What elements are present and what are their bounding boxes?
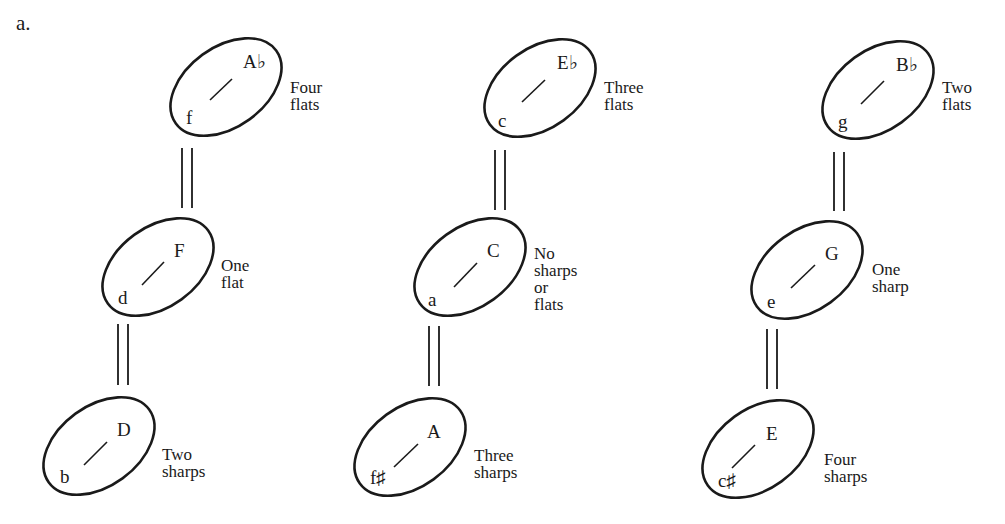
major-key-label: E♭ bbox=[557, 53, 578, 72]
minor-key-label: b bbox=[60, 467, 70, 486]
minor-key-label: f♯ bbox=[370, 468, 386, 487]
relative-slash bbox=[861, 81, 884, 104]
major-key-label: B♭ bbox=[896, 55, 918, 74]
major-key-label: D bbox=[117, 420, 131, 439]
key-signature-label: Fourflats bbox=[290, 79, 322, 113]
relative-slash bbox=[210, 79, 232, 100]
key-relationship-diagram: a. bbox=[0, 0, 1005, 524]
minor-key-label: d bbox=[118, 288, 128, 307]
relative-slash bbox=[454, 263, 477, 287]
key-ellipse-e-csharp bbox=[684, 380, 831, 518]
minor-key-label: g bbox=[838, 112, 848, 131]
relative-slash bbox=[791, 265, 815, 288]
key-signature-label: Twosharps bbox=[162, 446, 205, 480]
key-signature-label: Nosharpsorflats bbox=[534, 245, 577, 313]
minor-key-label: c♯ bbox=[718, 471, 736, 490]
key-signature-label: Onesharp bbox=[872, 261, 909, 295]
key-signature-label: Oneflat bbox=[221, 257, 249, 291]
major-key-label: A bbox=[427, 422, 441, 441]
key-signature-label: Twoflats bbox=[942, 79, 972, 113]
key-signature-label: Threeflats bbox=[604, 79, 644, 113]
key-ellipse-d-b bbox=[25, 377, 172, 515]
key-ellipse-eb-c bbox=[466, 19, 613, 157]
key-ellipse-g-e bbox=[733, 201, 880, 339]
key-ellipse-bb-g bbox=[804, 21, 951, 159]
major-key-label: G bbox=[825, 244, 839, 263]
major-key-label: C bbox=[487, 241, 500, 260]
relative-slash bbox=[522, 80, 545, 102]
key-signature-label: Threesharps bbox=[474, 447, 517, 481]
key-ellipse-ab-f bbox=[152, 18, 299, 156]
relative-slash bbox=[394, 444, 418, 467]
relative-slash bbox=[142, 262, 164, 285]
relative-slash bbox=[732, 445, 755, 468]
key-ellipse-c-a bbox=[396, 198, 543, 336]
minor-key-label: c bbox=[498, 111, 506, 130]
minor-key-label: f bbox=[186, 108, 192, 127]
key-signature-label: Foursharps bbox=[824, 451, 867, 485]
relative-slash bbox=[84, 442, 107, 465]
major-key-label: A♭ bbox=[243, 52, 266, 71]
major-key-label: E bbox=[766, 424, 778, 443]
key-ellipse-a-fsharp bbox=[336, 378, 483, 516]
minor-key-label: e bbox=[767, 292, 775, 311]
major-key-label: F bbox=[174, 241, 185, 260]
key-ellipse-f-d bbox=[84, 198, 231, 336]
minor-key-label: a bbox=[428, 290, 436, 309]
